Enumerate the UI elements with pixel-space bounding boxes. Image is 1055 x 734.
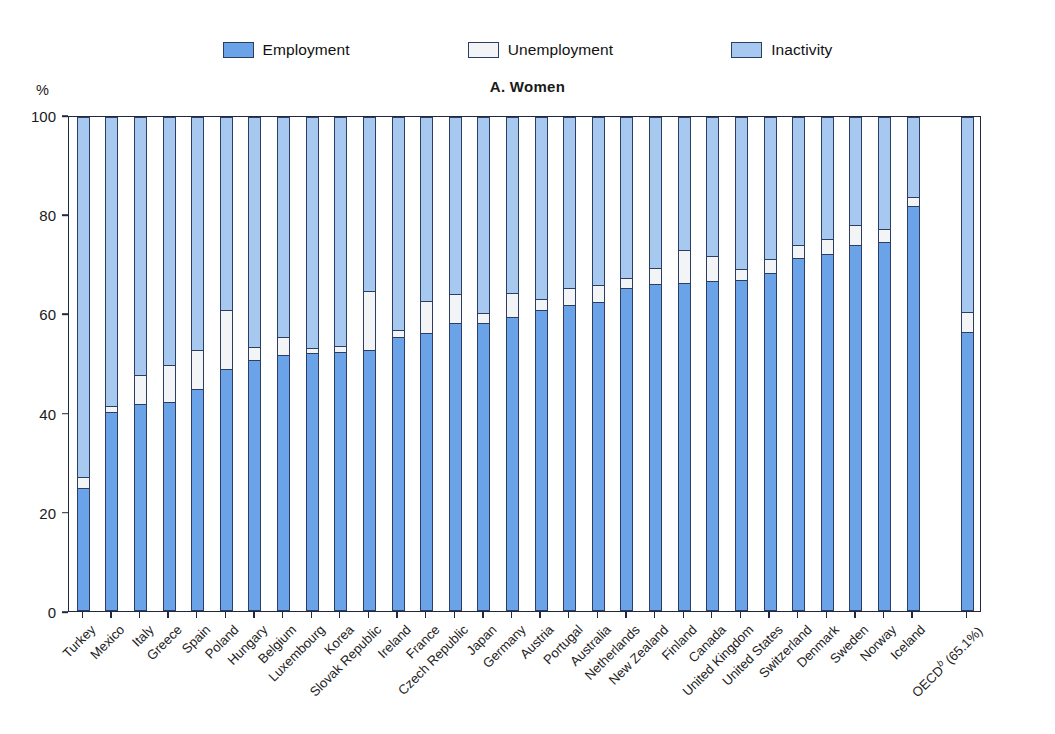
y-tick-label-60: 60 <box>39 306 56 323</box>
bar-segment-inactivity <box>507 118 518 297</box>
stacked-bar[interactable] <box>306 117 319 611</box>
bar-segment-unemployment <box>135 375 146 404</box>
stacked-bar[interactable] <box>191 117 204 611</box>
bar-segment-inactivity <box>593 118 604 289</box>
stacked-bar[interactable] <box>849 117 862 611</box>
bar-slot[interactable] <box>155 117 184 611</box>
bar-segment-inactivity <box>736 118 747 273</box>
bar-slot[interactable] <box>384 117 413 611</box>
bar-slot[interactable] <box>842 117 871 611</box>
bar-segment-unemployment <box>793 245 804 257</box>
stacked-bar[interactable] <box>706 117 719 611</box>
stacked-bar[interactable] <box>678 117 691 611</box>
bar-segment-employment <box>78 488 89 610</box>
bar-segment-unemployment <box>879 229 890 242</box>
bar-slot[interactable] <box>212 117 241 611</box>
bar-slot[interactable] <box>784 117 813 611</box>
stacked-bar[interactable] <box>220 117 233 611</box>
bar-slot[interactable] <box>269 117 298 611</box>
bar-slot[interactable] <box>641 117 670 611</box>
stacked-bar[interactable] <box>592 117 605 611</box>
bar-slot[interactable] <box>555 117 584 611</box>
bar-slot[interactable] <box>870 117 899 611</box>
bar-slot[interactable] <box>98 117 127 611</box>
bar-slot[interactable] <box>698 117 727 611</box>
bar-slot[interactable] <box>126 117 155 611</box>
stacked-bar[interactable] <box>649 117 662 611</box>
stacked-bar[interactable] <box>506 117 519 611</box>
bar-slot[interactable] <box>69 117 98 611</box>
y-tick-label-40: 40 <box>39 405 56 422</box>
bar-slot[interactable] <box>813 117 842 611</box>
bar-segment-employment <box>593 302 604 610</box>
bar-slot[interactable] <box>355 117 384 611</box>
stacked-bar[interactable] <box>277 117 290 611</box>
bar-slot[interactable] <box>953 117 982 611</box>
bar-segment-employment <box>364 350 375 610</box>
bar-segment-inactivity <box>278 118 289 341</box>
stacked-bar[interactable] <box>735 117 748 611</box>
stacked-bar[interactable] <box>163 117 176 611</box>
stacked-bar[interactable] <box>878 117 891 611</box>
bar-segment-inactivity <box>879 118 890 233</box>
bar-slot[interactable] <box>327 117 356 611</box>
stacked-bar[interactable] <box>764 117 777 611</box>
bar-segment-unemployment <box>621 278 632 288</box>
bar-slot[interactable] <box>584 117 613 611</box>
stacked-bar[interactable] <box>907 117 920 611</box>
stacked-bar[interactable] <box>77 117 90 611</box>
chart-legend: EmploymentUnemploymentInactivity <box>0 38 1055 62</box>
bar-segment-employment <box>822 254 833 610</box>
bar-slot[interactable] <box>727 117 756 611</box>
bar-slot[interactable] <box>899 117 928 611</box>
bar-segment-employment <box>278 355 289 610</box>
stacked-bar[interactable] <box>535 117 548 611</box>
bar-segment-inactivity <box>78 118 89 481</box>
bar-slot[interactable] <box>670 117 699 611</box>
bar-segment-unemployment <box>278 337 289 354</box>
stacked-bar[interactable] <box>821 117 834 611</box>
bar-slot[interactable] <box>527 117 556 611</box>
stacked-bar[interactable] <box>134 117 147 611</box>
bar-segment-employment <box>564 305 575 610</box>
stacked-bar[interactable] <box>792 117 805 611</box>
bar-slot[interactable] <box>298 117 327 611</box>
bar-segment-employment <box>650 284 661 610</box>
bar-segment-inactivity <box>962 118 973 316</box>
x-axis-labels: TurkeyMexicoItalyGreeceSpainPolandHungar… <box>68 618 981 734</box>
bar-slot[interactable] <box>613 117 642 611</box>
bar-segment-inactivity <box>393 118 404 334</box>
stacked-bar[interactable] <box>961 117 974 611</box>
bar-segment-unemployment <box>536 299 547 310</box>
stacked-bar[interactable] <box>420 117 433 611</box>
stacked-bar[interactable] <box>363 117 376 611</box>
bar-segment-employment <box>135 404 146 610</box>
plot-area <box>68 116 981 612</box>
stacked-bar[interactable] <box>563 117 576 611</box>
bar-slot[interactable] <box>756 117 785 611</box>
bar-segment-unemployment <box>421 301 432 333</box>
bar-slot[interactable] <box>241 117 270 611</box>
bar-segment-employment <box>707 281 718 610</box>
legend-label-unemployment: Unemployment <box>508 41 613 59</box>
stacked-bar[interactable] <box>248 117 261 611</box>
bar-segment-inactivity <box>192 118 203 354</box>
bar-slot[interactable] <box>470 117 499 611</box>
chart-title: A. Women <box>0 78 1055 95</box>
stacked-bar[interactable] <box>620 117 633 611</box>
stacked-bar[interactable] <box>392 117 405 611</box>
bar-slot[interactable] <box>441 117 470 611</box>
bar-segment-employment <box>793 258 804 610</box>
bar-segment-inactivity <box>307 118 318 352</box>
bar-slot[interactable] <box>498 117 527 611</box>
stacked-bar[interactable] <box>449 117 462 611</box>
bar-segment-inactivity <box>106 118 117 410</box>
bar-segment-employment <box>164 402 175 610</box>
bar-slot[interactable] <box>183 117 212 611</box>
y-axis: 020406080100 <box>0 116 68 612</box>
bar-segment-inactivity <box>364 118 375 295</box>
stacked-bar[interactable] <box>477 117 490 611</box>
stacked-bar[interactable] <box>334 117 347 611</box>
stacked-bar[interactable] <box>105 117 118 611</box>
bar-slot[interactable] <box>412 117 441 611</box>
